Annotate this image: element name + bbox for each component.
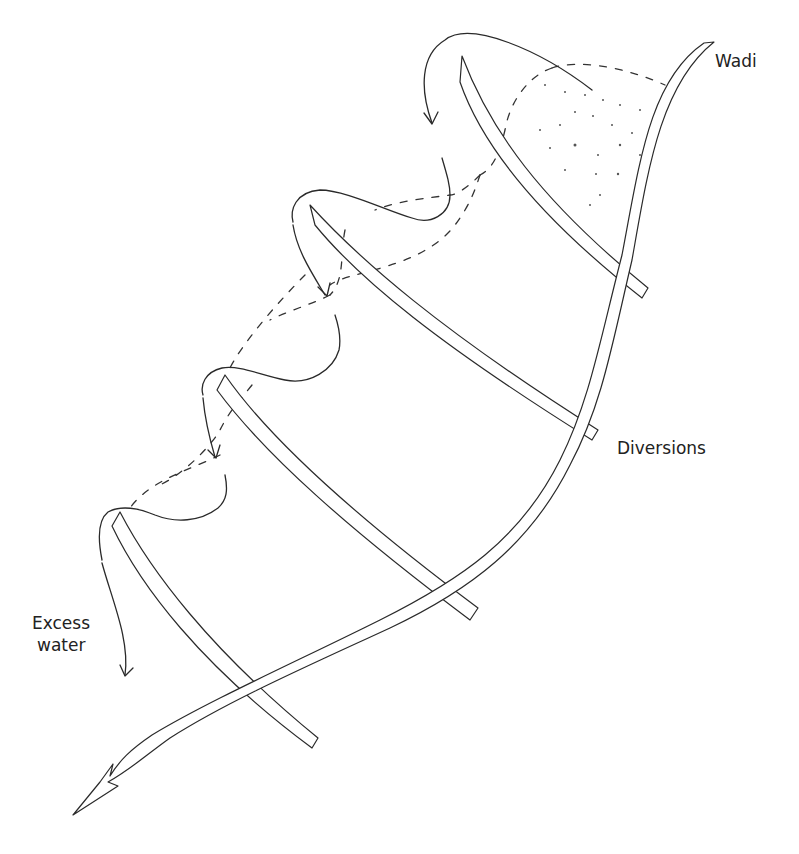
wadi-diversion-diagram bbox=[0, 0, 799, 854]
label-excess-water-line2: water bbox=[32, 634, 90, 656]
diversion-3 bbox=[217, 375, 478, 620]
label-diversions: Diversions bbox=[617, 437, 706, 459]
label-excess-water: Excess water bbox=[32, 612, 90, 656]
label-excess-water-line1: Excess bbox=[32, 612, 90, 634]
diversion-2 bbox=[310, 205, 598, 440]
excess-water-arrow-2 bbox=[202, 225, 340, 395]
label-wadi: Wadi bbox=[715, 50, 757, 72]
wadi-channel bbox=[73, 42, 714, 815]
excess-water-arrow-4 bbox=[102, 563, 133, 676]
diversion-4 bbox=[112, 512, 318, 748]
